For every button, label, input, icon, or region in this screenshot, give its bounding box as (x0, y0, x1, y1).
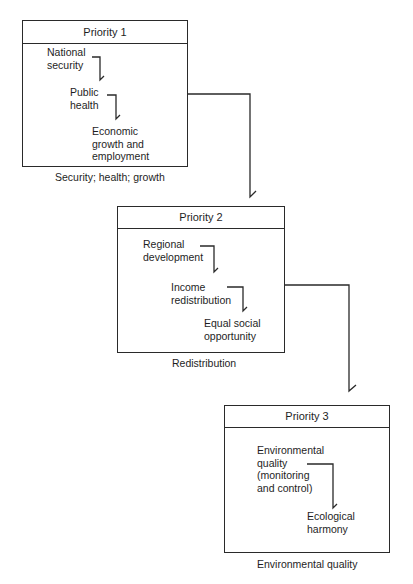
priority-3-title: Priority 3 (225, 406, 389, 428)
priority-2-title: Priority 2 (118, 207, 284, 229)
priority-1-item-1: National security (47, 46, 86, 71)
priority-3-item-2: Ecological harmony (307, 510, 355, 535)
priority-2-item-3: Equal social opportunity (204, 317, 261, 342)
priority-1-item-3: Economic growth and employment (92, 125, 149, 163)
priority-1-caption: Security; health; growth (55, 171, 165, 183)
priority-3-item-1: Environmental quality (monitoring and co… (257, 444, 324, 494)
priority-2-caption: Redistribution (172, 357, 236, 369)
connector-arrow-1-to-2 (188, 94, 256, 197)
priority-2-item-1: Regional development (143, 238, 203, 263)
connector-arrow-2-to-3 (285, 285, 356, 391)
priority-2-item-2: Income redistribution (171, 281, 231, 306)
priority-1-title: Priority 1 (23, 21, 187, 44)
priority-1-item-2: Public health (70, 86, 99, 111)
priority-3-caption: Environmental quality (257, 558, 357, 570)
